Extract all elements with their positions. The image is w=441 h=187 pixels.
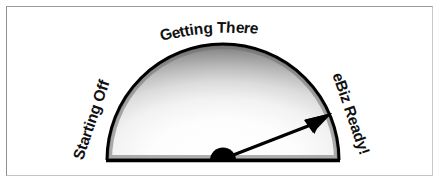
gauge-stage: Starting Off Getting There eBiz Ready! — [0, 0, 441, 187]
gauge-graphic — [0, 0, 441, 187]
gauge-dome — [107, 44, 339, 160]
gauge-dome-fill — [107, 44, 339, 160]
gauge-panel: Starting Off Getting There eBiz Ready! — [0, 0, 441, 187]
